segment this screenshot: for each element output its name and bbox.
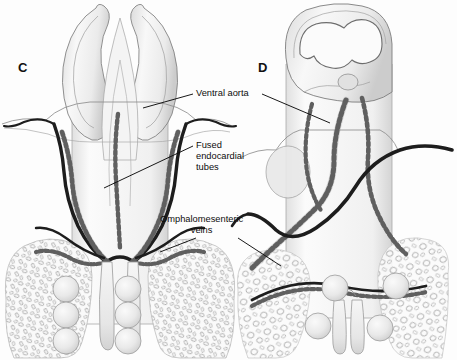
callout-fused-endocardial-tubes: Fused endocardial tubes xyxy=(196,140,244,174)
panel-c-right-mesenchyme xyxy=(148,239,235,358)
panel-c-tailgut-left xyxy=(99,262,114,350)
panel-letter-c: C xyxy=(18,60,28,75)
figure-root: C D Ventral aorta Fused endocardial tube… xyxy=(0,0,457,360)
panel-d-left-mesenchyme xyxy=(237,250,310,358)
panel-c-somite xyxy=(115,328,141,354)
panel-c-vessel-right-tail xyxy=(186,119,236,126)
panel-c-somite xyxy=(115,302,141,328)
panel-c-vessel-left-tail xyxy=(4,119,54,126)
panel-d-notochord xyxy=(338,74,358,90)
panel-c-somite xyxy=(53,328,79,354)
panel-c-somite xyxy=(53,302,79,328)
panel-d-somite xyxy=(383,273,409,299)
panel-d-pericardial-bulge xyxy=(266,146,310,198)
panel-letter-d: D xyxy=(258,60,268,75)
panel-d-graphic xyxy=(232,4,452,358)
panel-d-tailgut-right xyxy=(351,300,365,354)
panel-d-tailgut-left xyxy=(333,300,347,354)
callout-ventral-aorta: Ventral aorta xyxy=(196,88,249,99)
callout-omphalomesenteric-veins: Omphalomesenteric veins xyxy=(160,214,243,236)
panel-d-somite xyxy=(322,275,348,301)
panel-d-somite xyxy=(305,313,331,339)
anatomical-illustration xyxy=(0,0,457,360)
panel-c-somite xyxy=(115,276,141,302)
panel-d-somite xyxy=(367,315,393,341)
panel-c-neural-groove xyxy=(102,18,138,160)
panel-c-somite xyxy=(53,276,79,302)
